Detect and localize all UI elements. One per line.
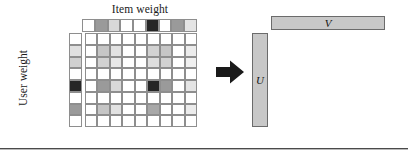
matrix-cell: [185, 68, 197, 80]
user-weight-cell: [69, 104, 82, 116]
matrix-cell: [172, 104, 184, 116]
user-weight-label: User weight: [17, 33, 29, 123]
matrix-cell: [97, 80, 109, 92]
matrix-cell: [122, 45, 134, 57]
matrix-cell: [135, 57, 147, 69]
matrix-cell: [147, 33, 159, 45]
matrix-cell: [110, 33, 122, 45]
matrix-cell: [85, 92, 97, 104]
matrix-cell: [160, 45, 172, 57]
item-weight-cell: [146, 19, 159, 32]
matrix-cell: [185, 80, 197, 92]
matrix-cell: [110, 57, 122, 69]
matrix-cell: [135, 92, 147, 104]
matrix-cell: [172, 57, 184, 69]
matrix-cell: [85, 45, 97, 57]
matrix-cell: [160, 80, 172, 92]
item-weight-cell: [171, 19, 184, 32]
matrix-cell: [172, 45, 184, 57]
user-weight-cell: [69, 115, 82, 127]
matrix-cell: [160, 92, 172, 104]
matrix-cell: [185, 104, 197, 116]
matrix-cell: [185, 92, 197, 104]
item-weight-cell: [184, 19, 197, 32]
user-weight-cell: [69, 45, 82, 57]
matrix-cell: [97, 57, 109, 69]
user-weight-cell: [69, 57, 82, 69]
matrix-cell: [172, 33, 184, 45]
matrix-cell: [185, 45, 197, 57]
item-weight-cell: [133, 19, 146, 32]
matrix-cell: [185, 115, 197, 127]
matrix-cell: [110, 68, 122, 80]
matrix-cell: [160, 57, 172, 69]
item-weight-cell: [159, 19, 172, 32]
matrix-cell: [122, 104, 134, 116]
matrix-cell: [147, 80, 159, 92]
matrix-cell: [147, 104, 159, 116]
matrix-cell: [97, 68, 109, 80]
matrix-cell: [85, 57, 97, 69]
matrix-cell: [110, 92, 122, 104]
matrix-cell: [97, 45, 109, 57]
matrix-cell: [135, 115, 147, 127]
matrix-cell: [172, 80, 184, 92]
matrix-cell: [160, 104, 172, 116]
bottom-divider-shadow: [0, 149, 408, 150]
matrix-cell: [97, 115, 109, 127]
figure-canvas: Item weight User weight U V: [0, 0, 408, 157]
item-weight-cell: [120, 19, 133, 32]
matrix-cell: [110, 104, 122, 116]
matrix-cell: [122, 57, 134, 69]
matrix-cell: [97, 33, 109, 45]
matrix-cell: [97, 104, 109, 116]
matrix-cell: [135, 104, 147, 116]
matrix-cell: [160, 33, 172, 45]
matrix-cell: [85, 115, 97, 127]
matrix-cell: [185, 33, 197, 45]
matrix-cell: [97, 92, 109, 104]
matrix-cell: [110, 80, 122, 92]
user-weight-vector: [69, 33, 82, 127]
u-vector-bar: U: [252, 33, 268, 127]
matrix-cell: [135, 33, 147, 45]
item-weight-cell: [95, 19, 108, 32]
matrix-cell: [172, 68, 184, 80]
matrix-cell: [147, 57, 159, 69]
user-weight-cell: [69, 68, 82, 80]
user-weight-cell: [69, 33, 82, 45]
v-vector-label: V: [325, 18, 332, 29]
matrix-cell: [110, 45, 122, 57]
rating-matrix: [85, 33, 197, 127]
matrix-cell: [135, 45, 147, 57]
matrix-cell: [172, 92, 184, 104]
matrix-cell: [122, 33, 134, 45]
matrix-cell: [85, 68, 97, 80]
matrix-cell: [135, 80, 147, 92]
matrix-cell: [160, 68, 172, 80]
u-vector-label: U: [256, 75, 264, 86]
matrix-cell: [160, 115, 172, 127]
matrix-cell: [135, 68, 147, 80]
user-weight-cell: [69, 92, 82, 104]
right-arrow-icon: [214, 58, 246, 86]
matrix-cell: [172, 115, 184, 127]
item-weight-cell: [108, 19, 121, 32]
v-vector-bar: V: [271, 16, 385, 30]
user-weight-cell: [69, 80, 82, 92]
item-weight-vector: [82, 19, 197, 32]
matrix-cell: [85, 104, 97, 116]
matrix-cell: [122, 80, 134, 92]
matrix-cell: [122, 115, 134, 127]
matrix-cell: [147, 115, 159, 127]
matrix-cell: [122, 92, 134, 104]
item-weight-label: Item weight: [100, 3, 180, 15]
matrix-cell: [85, 33, 97, 45]
matrix-cell: [147, 92, 159, 104]
matrix-cell: [185, 57, 197, 69]
matrix-cell: [110, 115, 122, 127]
matrix-cell: [147, 68, 159, 80]
matrix-cell: [147, 45, 159, 57]
item-weight-cell: [82, 19, 95, 32]
matrix-cell: [122, 68, 134, 80]
